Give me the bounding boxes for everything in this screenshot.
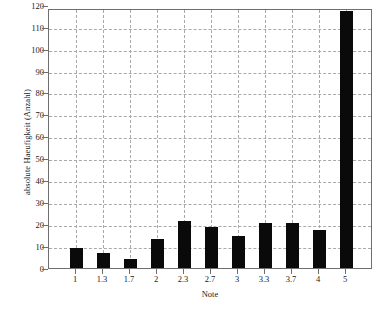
y-tick-label: 10 (18, 243, 44, 251)
y-tick-label: 20 (18, 221, 44, 229)
x-tick-mark (345, 269, 346, 274)
bar[interactable] (97, 253, 110, 268)
y-tick-label: 90 (18, 68, 44, 76)
bar[interactable] (178, 221, 191, 268)
y-tick-mark (42, 50, 48, 51)
x-tick-mark (156, 269, 157, 274)
y-tick-mark (42, 72, 48, 73)
bar[interactable] (313, 230, 326, 268)
y-tick-mark (42, 137, 48, 138)
x-tick-mark (129, 269, 130, 274)
y-axis-title: absolute Haeufigkeit (Anzahl) (20, 2, 34, 282)
y-tick-label: 50 (18, 155, 44, 163)
x-gridline (157, 10, 158, 268)
y-tick-mark (42, 115, 48, 116)
y-gridline (49, 29, 371, 30)
bar[interactable] (259, 223, 272, 268)
y-gridline (49, 204, 371, 205)
y-tick-label: 0 (18, 265, 44, 273)
y-tick-label: 40 (18, 177, 44, 185)
bar[interactable] (70, 248, 83, 268)
y-gridline (49, 160, 371, 161)
y-tick-label: 100 (18, 46, 44, 54)
bar-chart-figure: absolute Haeufigkeit (Anzahl) Note 01020… (0, 0, 385, 312)
y-gridline (49, 116, 371, 117)
bar[interactable] (124, 259, 137, 268)
x-tick-mark (318, 269, 319, 274)
y-tick-mark (42, 247, 48, 248)
y-gridline (49, 73, 371, 74)
x-tick-label: 5 (325, 274, 365, 284)
y-tick-mark (42, 225, 48, 226)
y-tick-mark (42, 159, 48, 160)
y-gridline (49, 138, 371, 139)
y-tick-label: 120 (18, 2, 44, 10)
bar[interactable] (151, 239, 164, 268)
y-gridline (49, 182, 371, 183)
x-tick-mark (210, 269, 211, 274)
x-tick-mark (75, 269, 76, 274)
x-gridline (130, 10, 131, 268)
x-tick-mark (237, 269, 238, 274)
y-tick-label: 60 (18, 133, 44, 141)
y-tick-mark (42, 6, 48, 7)
y-tick-mark (42, 203, 48, 204)
x-tick-mark (264, 269, 265, 274)
x-tick-mark (291, 269, 292, 274)
bar[interactable] (205, 227, 218, 268)
x-tick-mark (183, 269, 184, 274)
bar[interactable] (340, 11, 353, 268)
x-axis-title: Note (48, 289, 372, 299)
y-gridline (49, 51, 371, 52)
y-tick-label: 70 (18, 111, 44, 119)
x-gridline (103, 10, 104, 268)
y-tick-mark (42, 93, 48, 94)
y-tick-label: 30 (18, 199, 44, 207)
y-gridline (49, 94, 371, 95)
y-tick-mark (42, 181, 48, 182)
x-tick-mark (102, 269, 103, 274)
x-gridline (238, 10, 239, 268)
bar[interactable] (232, 236, 245, 268)
bar[interactable] (286, 223, 299, 268)
y-tick-mark (42, 269, 48, 270)
x-gridline (76, 10, 77, 268)
y-tick-mark (42, 28, 48, 29)
y-tick-label: 110 (18, 24, 44, 32)
plot-area (48, 9, 372, 269)
y-tick-label: 80 (18, 89, 44, 97)
